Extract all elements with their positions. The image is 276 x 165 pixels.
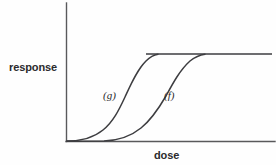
dose-response-figure: response dose (g) (f) (0, 0, 276, 165)
plot-area (0, 0, 276, 165)
curve-f-label: (f) (164, 89, 174, 101)
curve-f (67, 54, 205, 141)
x-axis-label: dose (154, 149, 179, 161)
curve-g-label: (g) (103, 89, 116, 101)
y-axis-label: response (9, 61, 57, 73)
